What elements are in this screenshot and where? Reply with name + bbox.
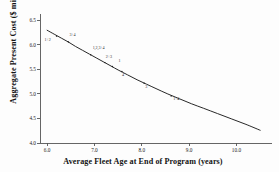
y-tick-label: 6.0 — [17, 42, 36, 48]
figure-container: Aggregate Present Cost ($ million) Avera… — [0, 0, 279, 172]
x-tick-label: 6.0 — [40, 147, 54, 153]
y-tick-label: 5.0 — [17, 91, 36, 97]
annotation-label: 3 — [145, 84, 147, 89]
annotation-label: 4 — [122, 72, 124, 77]
annotation-label: 3+4 — [69, 32, 75, 37]
y-tick-label: 6.5 — [17, 17, 36, 23]
x-tick-label: 7.0 — [87, 147, 101, 153]
annotation-label: 1+4 — [173, 96, 179, 101]
x-axis-title: Average Fleet Age at End of Program (yea… — [18, 157, 268, 166]
annotation-label: 1+2 — [45, 37, 51, 42]
x-tick-label: 9.0 — [182, 147, 196, 153]
data-curve — [47, 30, 260, 130]
x-tick-label: 8.0 — [135, 147, 149, 153]
annotation-label: 1,2,3+4 — [93, 45, 105, 50]
y-tick-label: 5.5 — [17, 66, 36, 72]
y-tick-label: 4.0 — [17, 140, 36, 146]
y-tick-label: 4.5 — [17, 115, 36, 121]
annotation-label: 1 — [118, 58, 120, 63]
x-tick-label: 10.0 — [229, 147, 243, 153]
annotation-label: 2+3 — [106, 54, 112, 59]
